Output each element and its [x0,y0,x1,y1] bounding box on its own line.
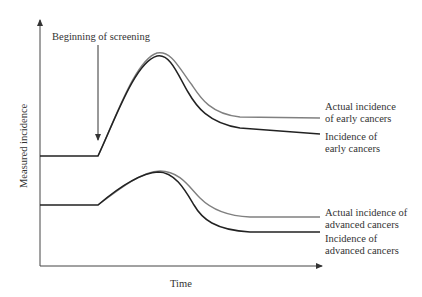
screening-label: Beginning of screening [52,31,150,43]
curve-advanced-actual [98,171,320,217]
curve-early-actual [98,53,320,156]
x-axis-label: Time [170,278,192,290]
curve-early-measured [40,56,320,156]
curve-advanced-measured [40,172,320,232]
label-advanced-measured: Incidence ofadvanced cancers [325,233,399,257]
label-early-actual: Actual incidenceof early cancers [325,101,396,125]
label-early-measured: Incidence ofearly cancers [325,131,380,155]
y-axis-label: Measured incidence [18,104,29,188]
label-advanced-actual: Actual incidence ofadvanced cancers [325,207,407,231]
